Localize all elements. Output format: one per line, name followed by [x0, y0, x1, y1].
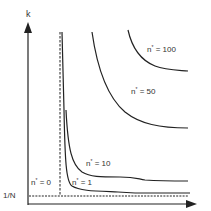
curve-n10 — [66, 110, 188, 181]
curve-label-n1: n* = 1 — [72, 179, 92, 187]
curve-label-n50: n* = 50 — [131, 88, 155, 96]
x-axis-arrow-icon — [186, 200, 197, 208]
y-axis-arrow-icon — [24, 22, 32, 33]
curve-label-n100: n* = 100 — [147, 46, 176, 54]
diagram-canvas: k 1/N n* = 0 n* = 1 n* = 10 n* = 50 n* =… — [0, 0, 211, 211]
curve-label-n0: n* = 0 — [31, 179, 51, 187]
y-tick-label: 1/N — [3, 192, 15, 200]
y-axis-label: k — [26, 10, 31, 19]
curve-label-n10: n* = 10 — [86, 160, 110, 168]
